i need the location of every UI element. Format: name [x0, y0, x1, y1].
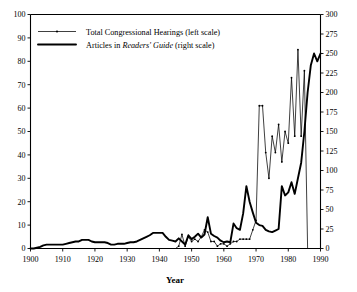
right-tick-label: 100: [326, 166, 338, 175]
right-tick-label: 275: [326, 30, 338, 39]
right-tick-label: 125: [326, 147, 338, 156]
right-tick-label: 150: [326, 127, 338, 136]
data-point-marker: [204, 229, 206, 231]
legend-label-hearings: Total Congressional Hearings (left scale…: [86, 28, 220, 37]
data-point-marker: [291, 77, 293, 79]
left-tick-label: 90: [18, 34, 26, 43]
data-point-marker: [249, 238, 251, 240]
left-tick-label: 50: [18, 127, 26, 136]
data-point-marker: [216, 245, 218, 247]
data-point-marker: [187, 236, 189, 238]
x-tick-label: 1930: [119, 255, 135, 264]
right-tick-label: 50: [326, 205, 334, 214]
data-point-marker: [229, 243, 231, 245]
data-point-marker: [284, 131, 286, 133]
right-tick-label: 175: [326, 108, 338, 117]
legend-label-readers-guide: Articles in Readers' Guide (right scale): [86, 41, 215, 50]
data-point-marker: [191, 241, 193, 243]
chart-legend: Total Congressional Hearings (left scale…: [38, 28, 220, 50]
x-tick-label: 1910: [55, 255, 71, 264]
data-point-marker: [274, 152, 276, 154]
x-tick-label: 1990: [313, 255, 329, 264]
right-tick-label: 250: [326, 49, 338, 58]
series-readers-guide-line: [31, 54, 321, 249]
data-point-marker: [255, 220, 257, 222]
left-tick-label: 20: [18, 198, 26, 207]
data-point-marker: [297, 49, 299, 51]
data-point-marker: [236, 241, 238, 243]
legend-marker-dot-icon: [56, 30, 58, 32]
data-point-marker: [294, 135, 296, 137]
data-point-marker: [181, 234, 183, 236]
data-point-marker: [194, 238, 196, 240]
left-tick-label: 30: [18, 174, 26, 183]
data-point-marker: [223, 243, 225, 245]
x-tick-label: 1940: [151, 255, 167, 264]
data-point-marker: [197, 241, 199, 243]
left-tick-label: 40: [18, 151, 26, 160]
data-point-marker: [287, 142, 289, 144]
data-point-marker: [178, 245, 180, 247]
right-axis-ticks: 0255075100125150175200225250275300: [321, 10, 338, 253]
x-tick-label: 1970: [248, 255, 264, 264]
left-tick-label: 60: [18, 104, 26, 113]
left-tick-label: 0: [22, 244, 26, 253]
axes-frame: [31, 15, 321, 249]
x-tick-label: 1900: [23, 255, 39, 264]
data-point-marker: [200, 236, 202, 238]
left-tick-label: 70: [18, 81, 26, 90]
data-point-marker: [220, 243, 222, 245]
data-point-marker: [262, 105, 264, 107]
x-tick-label: 1920: [87, 255, 103, 264]
left-axis-ticks: 0102030405060708090100: [14, 10, 31, 253]
right-tick-label: 300: [326, 10, 338, 19]
chart-figure: 0102030405060708090100 02550751001251501…: [0, 0, 357, 292]
data-point-marker: [252, 229, 254, 231]
data-point-marker: [210, 241, 212, 243]
data-point-marker: [278, 124, 280, 126]
data-point-marker: [233, 241, 235, 243]
data-point-marker: [300, 135, 302, 137]
data-point-marker: [184, 245, 186, 247]
data-point-marker: [213, 241, 215, 243]
data-point-marker: [265, 152, 267, 154]
data-point-marker: [281, 161, 283, 163]
chart-canvas: 0102030405060708090100 02550751001251501…: [0, 0, 357, 292]
x-axis-title: Year: [166, 275, 184, 285]
series-group: [31, 49, 321, 249]
data-point-marker: [242, 238, 244, 240]
data-point-marker: [271, 135, 273, 137]
right-tick-label: 25: [326, 225, 334, 234]
left-tick-label: 100: [14, 10, 26, 19]
data-point-marker: [239, 238, 241, 240]
left-tick-label: 10: [18, 221, 26, 230]
right-tick-label: 200: [326, 88, 338, 97]
data-point-marker: [268, 177, 270, 179]
right-tick-label: 75: [326, 186, 334, 195]
series-congressional-hearings-line: [31, 50, 321, 249]
data-point-marker: [258, 105, 260, 107]
x-axis-ticks: 1900191019201930194019501960197019801990: [23, 249, 329, 264]
x-tick-label: 1950: [184, 255, 200, 264]
right-tick-label: 0: [326, 244, 330, 253]
data-point-marker: [207, 231, 209, 233]
left-tick-label: 80: [18, 57, 26, 66]
data-point-marker: [303, 70, 305, 72]
x-tick-label: 1980: [280, 255, 296, 264]
right-tick-label: 225: [326, 69, 338, 78]
x-tick-label: 1960: [216, 255, 232, 264]
data-point-marker: [245, 238, 247, 240]
data-point-marker: [226, 245, 228, 247]
